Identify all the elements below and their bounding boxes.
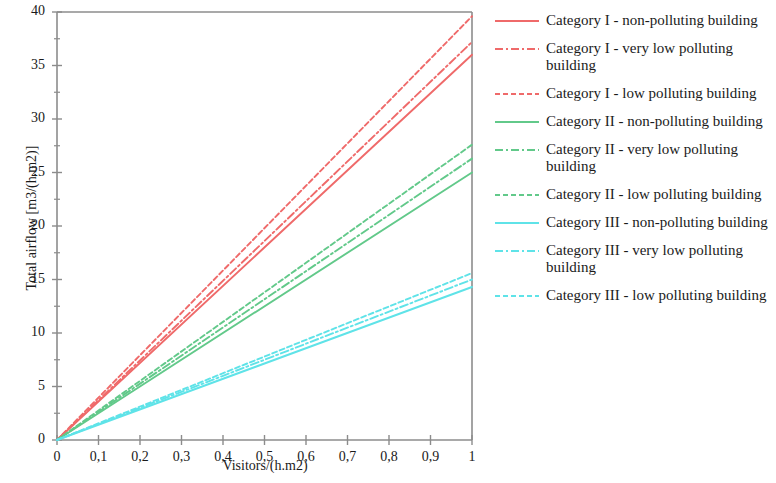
x-tick-label: 0,8 (369, 449, 409, 465)
series-line (57, 273, 472, 440)
chart-legend: Category I - non-polluting buildingCateg… (494, 0, 776, 483)
x-tick-label: 0 (37, 449, 77, 465)
legend-line-swatch (494, 40, 540, 57)
y-tick-label: 5 (5, 378, 45, 394)
data-series-group (57, 16, 472, 440)
plot-area: 0510152025303540 00,10,20,30,40,50,60,70… (0, 0, 490, 483)
legend-item-label: Category III - non-polluting building (546, 214, 768, 231)
legend-line-swatch (494, 85, 540, 102)
legend-line-swatch (494, 141, 540, 158)
legend-line-swatch (494, 242, 540, 259)
legend-line-swatch (494, 186, 540, 203)
legend-line-swatch (494, 287, 540, 304)
legend-item-label: Category III - very low polluting buildi… (546, 242, 770, 276)
series-line (57, 173, 472, 441)
series-line (57, 159, 472, 440)
legend-item[interactable]: Category II - non-polluting building (494, 113, 776, 130)
legend-item[interactable]: Category III - low polluting building (494, 287, 776, 304)
legend-line-swatch (494, 214, 540, 231)
x-tick-label: 1 (452, 449, 492, 465)
legend-item[interactable]: Category I - non-polluting building (494, 12, 776, 29)
chart-canvas (0, 0, 490, 483)
legend-item-label: Category II - very low polluting buildin… (546, 141, 770, 175)
x-tick-label: 0,9 (411, 449, 451, 465)
y-tick-label: 35 (5, 57, 45, 73)
legend-item-label: Category I - low polluting building (546, 85, 756, 102)
legend-item[interactable]: Category II - very low polluting buildin… (494, 141, 776, 175)
series-line (57, 145, 472, 440)
legend-item-label: Category I - very low polluting building (546, 40, 770, 74)
series-line (57, 16, 472, 440)
y-tick-label: 0 (5, 431, 45, 447)
series-line (57, 42, 472, 440)
legend-item[interactable]: Category I - very low polluting building (494, 40, 776, 74)
legend-line-swatch (494, 12, 540, 29)
legend-item-label: Category III - low polluting building (546, 287, 766, 304)
legend-item-label: Category II - non-polluting building (546, 113, 763, 130)
series-line (57, 55, 472, 440)
legend-item-label: Category II - low polluting building (546, 186, 761, 203)
y-axis-title: Total airflow [m3/(h.m2)] (24, 108, 40, 328)
x-axis-title: Visitors/(h.m2) (175, 458, 355, 474)
x-tick-label: 0,1 (79, 449, 119, 465)
series-line (57, 287, 472, 440)
legend-item[interactable]: Category II - low polluting building (494, 186, 776, 203)
legend-item[interactable]: Category III - very low polluting buildi… (494, 242, 776, 276)
legend-item[interactable]: Category I - low polluting building (494, 85, 776, 102)
legend-item[interactable]: Category III - non-polluting building (494, 214, 776, 231)
legend-line-swatch (494, 113, 540, 130)
y-tick-label: 40 (5, 3, 45, 19)
x-tick-label: 0,2 (120, 449, 160, 465)
chart-page: 0510152025303540 00,10,20,30,40,50,60,70… (0, 0, 776, 483)
legend-item-label: Category I - non-polluting building (546, 12, 758, 29)
